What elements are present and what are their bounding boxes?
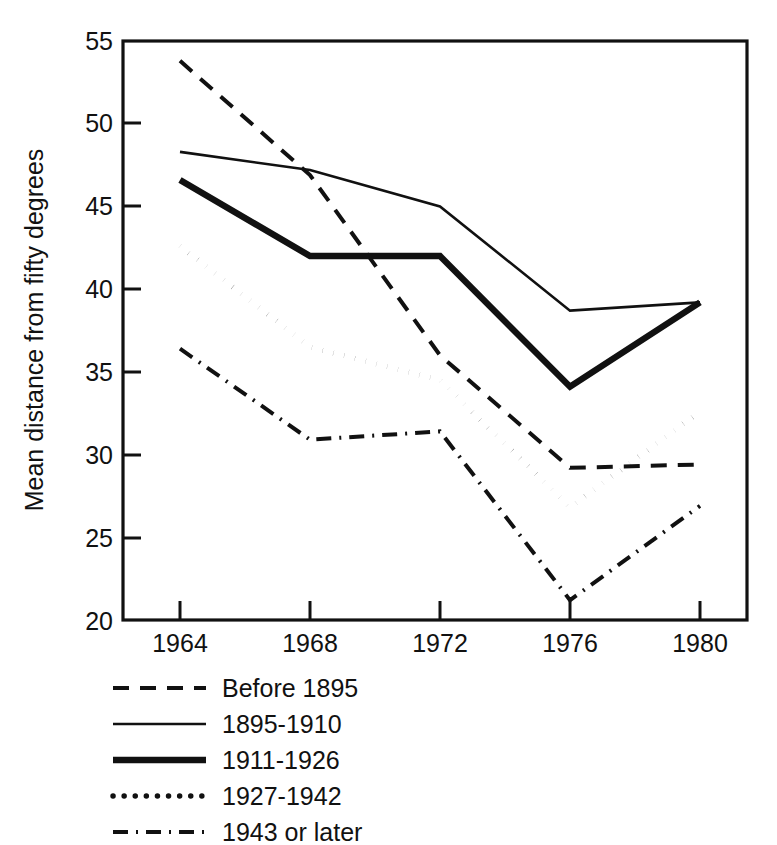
y-tick-label: 50 (85, 109, 113, 137)
legend-item: 1895-1910 (113, 710, 342, 738)
y-tick-label: 30 (85, 441, 113, 469)
legend-label: 1895-1910 (222, 710, 342, 738)
legend-label: 1943 or later (222, 818, 362, 845)
x-tick-label: 1976 (542, 629, 598, 657)
legend-label: Before 1895 (222, 674, 358, 702)
series-line (180, 152, 700, 311)
y-tick-marks (123, 123, 141, 538)
legend-label: 1911-1926 (222, 746, 340, 774)
series-layer (180, 61, 700, 600)
y-axis-title: Mean distance from fifty degrees (20, 149, 48, 512)
x-tick-label: 1980 (672, 629, 728, 657)
y-tick-label: 55 (85, 27, 113, 55)
chart-figure: Mean distance from fifty degrees 55 50 4… (0, 0, 777, 845)
legend-item: 1943 or later (113, 818, 362, 845)
series-line (180, 180, 700, 387)
legend-item: 1927-1942 (113, 782, 342, 810)
x-tick-marks (180, 601, 700, 620)
y-tick-labels: 55 50 45 40 35 30 25 20 (85, 27, 113, 635)
series-line (180, 246, 700, 507)
line-chart: Mean distance from fifty degrees 55 50 4… (0, 0, 777, 845)
x-tick-label: 1968 (282, 629, 338, 657)
y-tick-label: 45 (85, 192, 113, 220)
series-line (180, 349, 700, 600)
x-tick-labels: 1964 1968 1972 1976 1980 (152, 629, 728, 657)
legend-label: 1927-1942 (222, 782, 342, 810)
legend-item: Before 1895 (113, 674, 358, 702)
x-tick-label: 1972 (412, 629, 468, 657)
y-tick-label: 25 (85, 524, 113, 552)
x-tick-label: 1964 (152, 629, 208, 657)
legend-item: 1911-1926 (113, 746, 340, 774)
y-tick-label: 35 (85, 358, 113, 386)
y-tick-label: 40 (85, 275, 113, 303)
chart-legend: Before 18951895-19101911-19261927-194219… (113, 674, 362, 845)
y-tick-label: 20 (85, 607, 113, 635)
series-line (180, 61, 700, 468)
